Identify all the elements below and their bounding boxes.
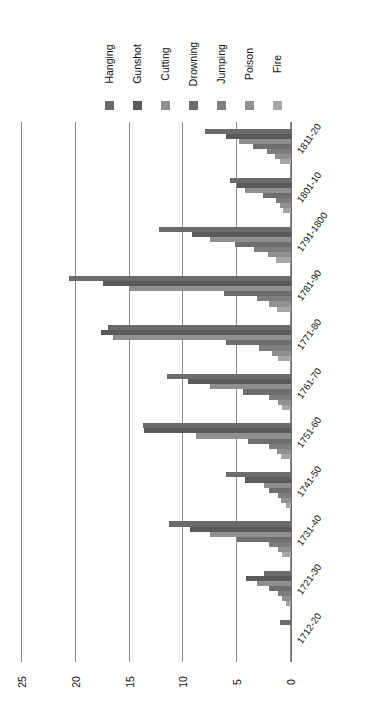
bar-group <box>22 613 291 662</box>
legend-item-label: Cutting <box>159 47 171 80</box>
bar <box>283 208 291 213</box>
bar-group <box>22 171 291 220</box>
legend-swatch-icon <box>189 101 198 110</box>
bar <box>286 503 291 508</box>
bar-group <box>22 318 291 367</box>
value-tick-label: 0 <box>285 670 297 694</box>
bar-group <box>22 122 291 171</box>
category-tick-label: 1751-60 <box>294 415 323 450</box>
bar <box>282 552 291 557</box>
bar-group <box>22 466 291 515</box>
legend-swatch-icon <box>105 101 114 110</box>
value-tick-label: 10 <box>177 670 189 694</box>
chart-legend: HangingGunshotCuttingDrowningJumpingPois… <box>96 24 301 110</box>
bar <box>278 356 291 361</box>
category-tick-label: 1771-80 <box>294 317 323 352</box>
legend-swatch-icon <box>245 101 254 110</box>
legend-swatch-icon <box>217 101 226 110</box>
legend-item-label: Fire <box>271 55 283 73</box>
bar <box>276 257 291 262</box>
legend-item[interactable]: Gunshot <box>124 24 150 110</box>
plot-area <box>22 122 291 662</box>
bar <box>280 620 291 625</box>
bar <box>286 601 291 606</box>
legend-swatch-icon <box>161 101 170 110</box>
legend-item[interactable]: Fire <box>264 24 290 110</box>
legend-item-label: Hanging <box>103 44 115 83</box>
value-tick-label: 25 <box>16 670 28 694</box>
legend-item-label: Drowning <box>187 42 199 86</box>
value-tick-label: 15 <box>124 670 136 694</box>
bar-group <box>22 269 291 318</box>
chart-canvas: HangingGunshotCuttingDrowningJumpingPois… <box>0 0 368 713</box>
value-tick-label: 20 <box>70 670 82 694</box>
value-tick-label: 5 <box>231 670 243 694</box>
legend-item-label: Gunshot <box>131 44 143 84</box>
bar-group <box>22 220 291 269</box>
bar-group <box>22 417 291 466</box>
bar-group <box>22 367 291 416</box>
bar <box>282 405 291 410</box>
legend-item-label: Poison <box>243 48 255 80</box>
category-tick-label: 1712-20 <box>294 611 323 646</box>
category-tick-label: 1781-90 <box>294 268 323 303</box>
bar-group <box>22 564 291 613</box>
category-tick-label: 1791-1800 <box>294 210 329 254</box>
category-tick-label: 1761-70 <box>294 366 323 401</box>
category-tick-label: 1731-40 <box>294 513 323 548</box>
legend-item-label: Jumping <box>215 44 227 84</box>
category-tick-label: 1721-30 <box>294 562 323 597</box>
legend-item[interactable]: Jumping <box>208 24 234 110</box>
bar <box>277 307 291 312</box>
bar <box>280 159 291 164</box>
legend-swatch-icon <box>273 101 282 110</box>
bar-group <box>22 515 291 564</box>
legend-swatch-icon <box>133 101 142 110</box>
bar <box>281 454 291 459</box>
category-tick-label: 1811-20 <box>294 121 323 155</box>
category-tick-label: 1741-50 <box>294 464 323 499</box>
legend-item[interactable]: Poison <box>236 24 262 110</box>
category-tick-label: 1801-10 <box>294 169 323 204</box>
